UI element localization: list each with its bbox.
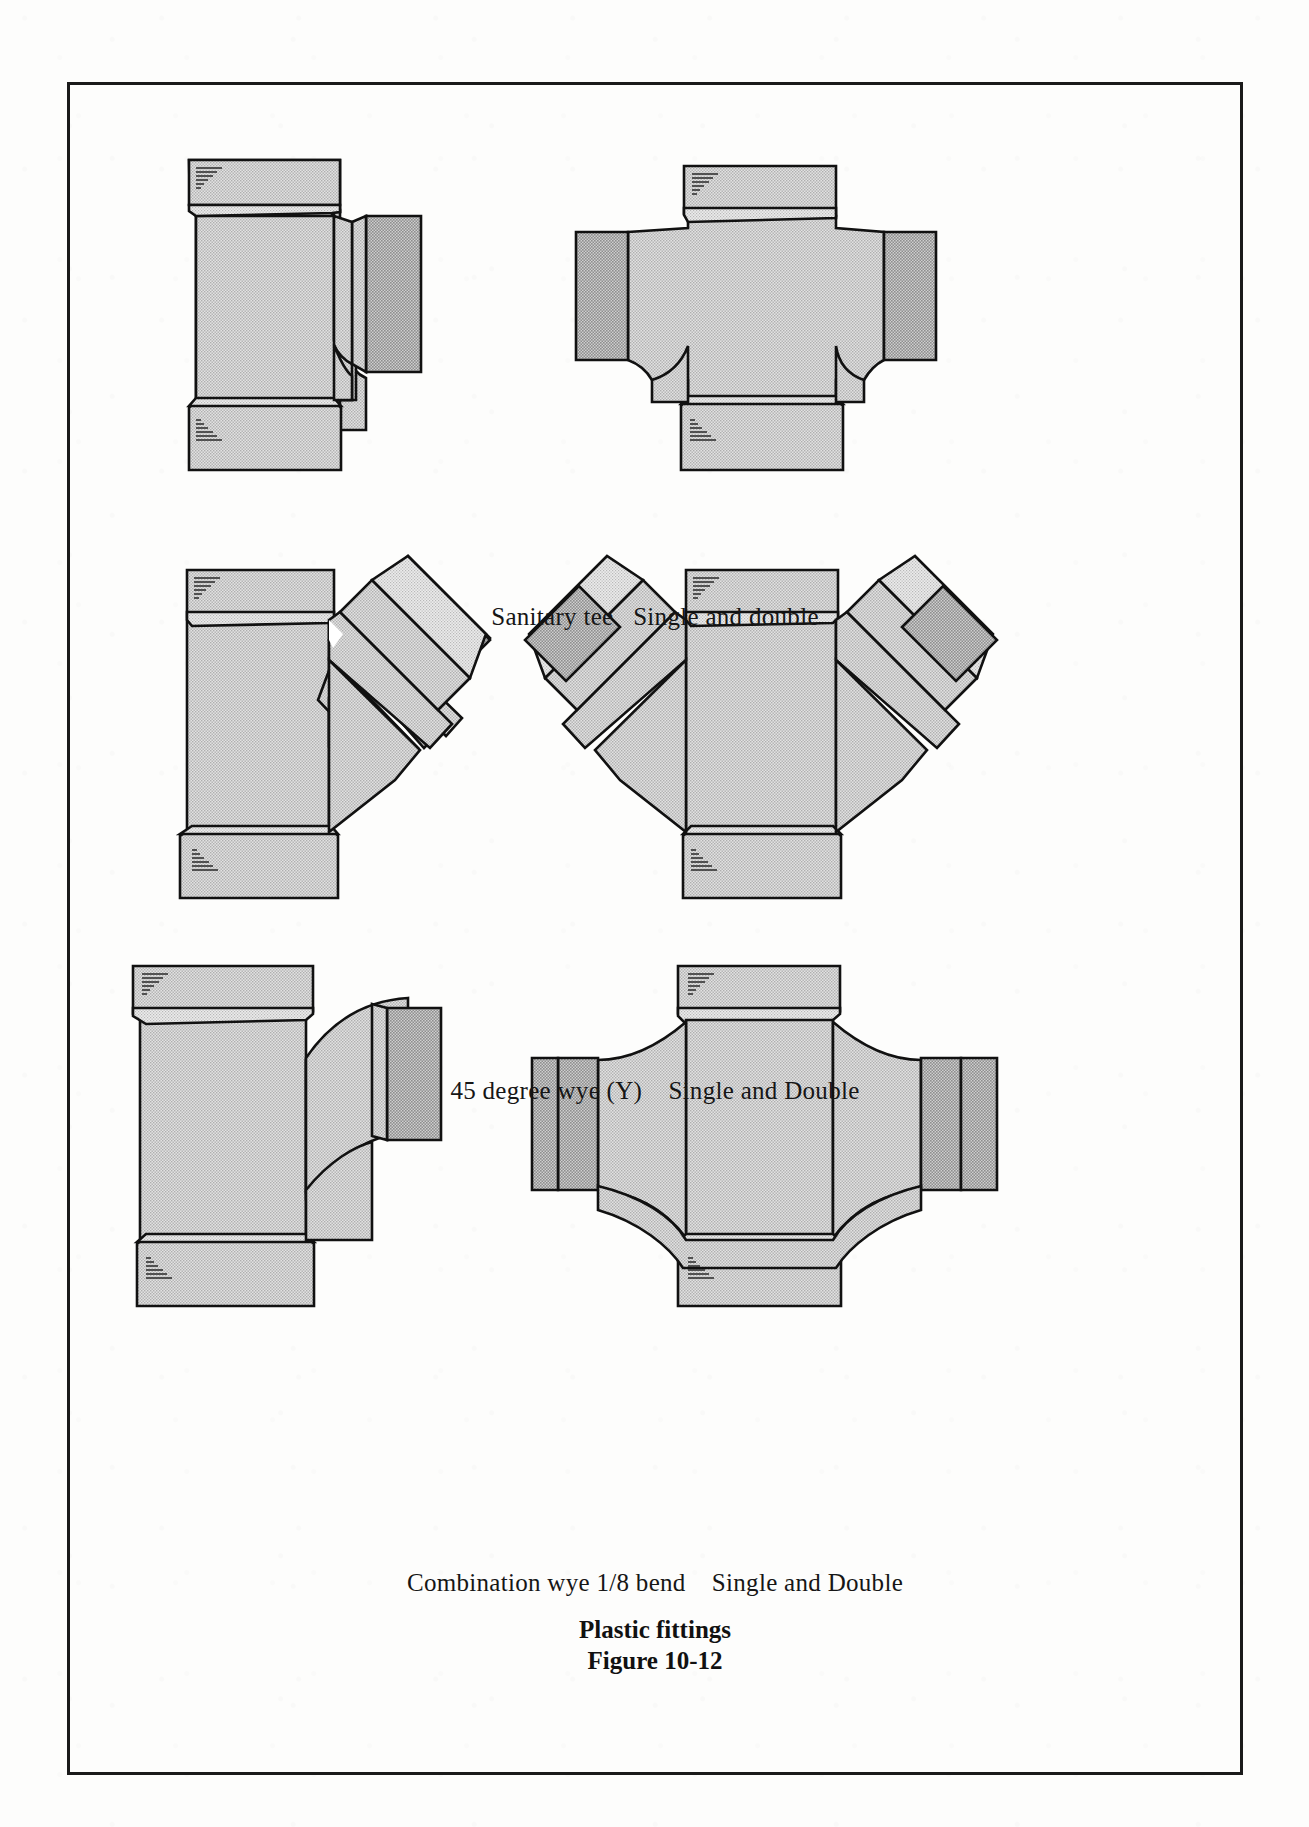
caption-wye-45: 45 degree wye (Y) Single and Double — [67, 1076, 1243, 1106]
figure-number: Figure 10-12 — [67, 1645, 1243, 1676]
figure-border — [67, 82, 1243, 1775]
figure-title: Plastic fittings — [67, 1614, 1243, 1645]
figure-page: Sanitary tee Single and double 45 degree… — [0, 0, 1309, 1827]
caption-combination-wye: Combination wye 1/8 bend Single and Doub… — [67, 1568, 1243, 1598]
caption-sanitary-tee: Sanitary tee Single and double — [67, 602, 1243, 632]
